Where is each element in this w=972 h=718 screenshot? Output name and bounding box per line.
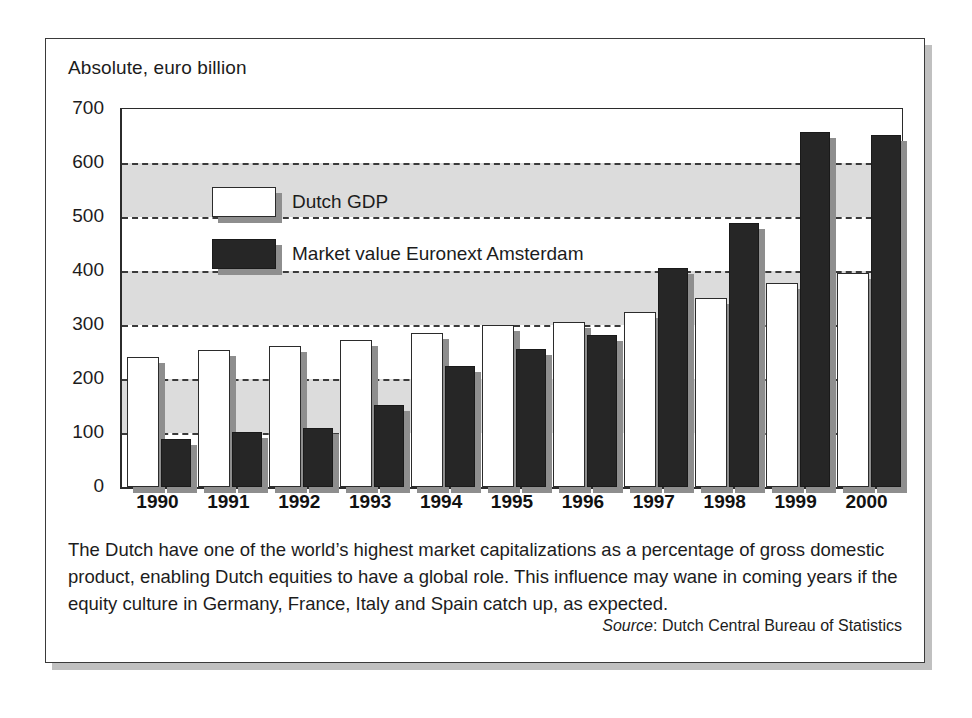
bar-gdp-1991 xyxy=(198,350,230,487)
legend-swatch-market-value xyxy=(212,239,276,269)
bar-face xyxy=(340,340,372,487)
bar-gdp-1999 xyxy=(766,283,798,487)
bar-group xyxy=(127,109,191,487)
bar-face xyxy=(445,366,475,487)
bar-face xyxy=(269,346,301,487)
y-tick-label: 400 xyxy=(72,259,104,281)
bar-gdp-1993 xyxy=(340,340,372,487)
bar-market-value-1990 xyxy=(161,439,191,487)
bar-market-value-1995 xyxy=(516,349,546,487)
bar-group xyxy=(269,109,333,487)
bar-group xyxy=(695,109,759,487)
x-tick-label-1992: 1992 xyxy=(278,491,320,513)
x-tick-label-1991: 1991 xyxy=(207,491,249,513)
bar-face xyxy=(232,432,262,487)
bar-market-value-1992 xyxy=(303,428,333,487)
x-tick-label-1995: 1995 xyxy=(491,491,533,513)
bar-face xyxy=(766,283,798,487)
bar-group xyxy=(766,109,830,487)
bar-group xyxy=(198,109,262,487)
bar-face xyxy=(871,135,901,487)
source-text: : Dutch Central Bureau of Statistics xyxy=(653,617,902,634)
legend-swatch-gdp xyxy=(212,187,276,217)
bar-group xyxy=(411,109,475,487)
bar-market-value-1998 xyxy=(729,223,759,487)
bar-market-value-1997 xyxy=(658,268,688,487)
bar-group xyxy=(340,109,404,487)
y-tick-label: 200 xyxy=(72,367,104,389)
bar-face xyxy=(624,312,656,488)
bar-face xyxy=(516,349,546,487)
y-tick-label: 500 xyxy=(72,205,104,227)
bar-face xyxy=(374,405,404,487)
bar-gdp-1997 xyxy=(624,312,656,488)
bar-face xyxy=(658,268,688,487)
x-axis-tick-labels: 1990199119921993199419951996199719981999… xyxy=(120,491,900,525)
y-tick-label: 700 xyxy=(72,97,104,119)
bar-group xyxy=(624,109,688,487)
x-tick-label-1996: 1996 xyxy=(562,491,604,513)
bar-group xyxy=(482,109,546,487)
x-tick-label-1999: 1999 xyxy=(774,491,816,513)
bar-market-value-1994 xyxy=(445,366,475,487)
bar-face xyxy=(198,350,230,487)
legend-item-gdp: Dutch GDP xyxy=(212,187,583,217)
x-tick-label-1994: 1994 xyxy=(420,491,462,513)
bar-face xyxy=(303,428,333,487)
bar-face xyxy=(729,223,759,487)
chart-legend: Dutch GDP Market value Euronext Amsterda… xyxy=(212,187,583,291)
legend-item-market-value: Market value Euronext Amsterdam xyxy=(212,239,583,269)
bar-market-value-1993 xyxy=(374,405,404,487)
x-tick-label-1993: 1993 xyxy=(349,491,391,513)
legend-label-gdp: Dutch GDP xyxy=(292,191,388,213)
bar-market-value-1999 xyxy=(800,132,830,487)
bar-gdp-2000 xyxy=(837,273,869,487)
x-tick-label-1990: 1990 xyxy=(136,491,178,513)
bar-gdp-1992 xyxy=(269,346,301,487)
y-tick-label: 100 xyxy=(72,421,104,443)
x-tick-label-1997: 1997 xyxy=(633,491,675,513)
legend-swatch-dark-icon xyxy=(212,239,276,269)
bar-face xyxy=(161,439,191,487)
bar-gdp-1995 xyxy=(482,325,514,487)
bar-market-value-1991 xyxy=(232,432,262,487)
figure-caption: The Dutch have one of the world’s highes… xyxy=(68,537,906,617)
bar-gdp-1990 xyxy=(127,357,159,487)
x-tick-label-1998: 1998 xyxy=(704,491,746,513)
figure-root: Absolute, euro billion 01002003004005006… xyxy=(0,0,972,718)
bar-market-value-2000 xyxy=(871,135,901,487)
y-tick-label: 600 xyxy=(72,151,104,173)
y-tick-label: 0 xyxy=(93,475,104,497)
y-axis-tick-labels: 0100200300400500600700 xyxy=(46,108,112,486)
bar-market-value-1996 xyxy=(587,335,617,487)
bar-face xyxy=(553,322,585,487)
x-tick-label-2000: 2000 xyxy=(845,491,887,513)
bar-gdp-1998 xyxy=(695,298,727,487)
bar-group xyxy=(553,109,617,487)
bar-face xyxy=(482,325,514,487)
y-tick-label: 300 xyxy=(72,313,104,335)
bar-face xyxy=(837,273,869,487)
legend-label-market-value: Market value Euronext Amsterdam xyxy=(292,243,583,265)
bar-series-container xyxy=(122,109,902,487)
legend-swatch-white-icon xyxy=(212,187,276,217)
bar-face xyxy=(587,335,617,487)
bar-face xyxy=(695,298,727,487)
bar-gdp-1994 xyxy=(411,333,443,487)
bar-face xyxy=(411,333,443,487)
plot-area-wrapper: 0100200300400500600700 Dutch GDP xyxy=(46,39,926,499)
figure-panel: Absolute, euro billion 01002003004005006… xyxy=(45,38,925,663)
bar-face xyxy=(800,132,830,487)
bar-gdp-1996 xyxy=(553,322,585,487)
figure-source: Source: Dutch Central Bureau of Statisti… xyxy=(602,617,902,635)
source-label: Source xyxy=(602,617,653,634)
bar-face xyxy=(127,357,159,487)
plot-area: Dutch GDP Market value Euronext Amsterda… xyxy=(120,108,903,489)
bar-group xyxy=(837,109,901,487)
